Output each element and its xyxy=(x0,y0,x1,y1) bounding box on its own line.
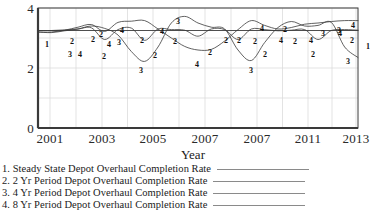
x-axis-tick: 2007 xyxy=(244,131,271,146)
series-marker-4: 4 xyxy=(107,41,111,49)
series-marker-3: 3 xyxy=(337,27,341,35)
legend-item-label: 1. Steady State Depot Overhaul Completio… xyxy=(2,163,211,175)
legend-item: 4. 8 Yr Period Depot Overhaul Completion… xyxy=(2,199,386,211)
y-axis-tick: 2 xyxy=(8,62,34,75)
series-marker-3: 3 xyxy=(68,51,72,59)
series-marker-2: 2 xyxy=(173,38,177,46)
x-axis-tick: 2007 xyxy=(192,131,219,146)
legend-item-label: 4. 8 Yr Period Depot Overhaul Completion… xyxy=(2,199,207,211)
series-marker-4: 4 xyxy=(195,61,199,69)
series-marker-4: 4 xyxy=(120,27,124,35)
series-marker-2: 2 xyxy=(253,38,257,46)
series-marker-2: 2 xyxy=(208,49,212,57)
y-axis-tick-labels: 024 xyxy=(4,0,34,130)
chart-legend: 1. Steady State Depot Overhaul Completio… xyxy=(2,163,386,211)
series-marker-2: 2 xyxy=(224,37,228,45)
x-axis-tick: 2001 xyxy=(37,131,64,146)
series-marker-2: 2 xyxy=(237,37,241,45)
series-marker-2: 2 xyxy=(91,36,95,44)
legend-item: 3. 4 Yr Period Depot Overhaul Completion… xyxy=(2,187,386,199)
series-marker-2: 2 xyxy=(70,38,74,46)
x-axis-tick-labels: 2001200320052007200720112013 xyxy=(0,131,386,148)
series-marker-3: 3 xyxy=(139,67,143,75)
y-axis-tick: 4 xyxy=(8,2,34,15)
series-marker-2: 2 xyxy=(140,37,144,45)
series-marker-3: 3 xyxy=(117,39,121,47)
series-marker-3: 3 xyxy=(249,67,253,75)
x-axis-tick: 2013 xyxy=(343,131,370,146)
series-marker-4: 4 xyxy=(78,51,82,59)
series-marker-2: 2 xyxy=(102,53,106,61)
legend-line-swatch xyxy=(217,169,309,170)
series-marker-2: 2 xyxy=(99,31,103,39)
legend-line-swatch xyxy=(213,181,305,182)
series-marker-4: 4 xyxy=(351,22,355,30)
legend-item-label: 2. 2 Yr Period Depot Overhaul Completion… xyxy=(2,175,207,187)
legend-line-swatch xyxy=(213,205,305,206)
x-axis-tick: 2005 xyxy=(140,131,167,146)
legend-item: 1. Steady State Depot Overhaul Completio… xyxy=(2,163,386,175)
series-marker-2: 2 xyxy=(283,26,287,34)
series-marker-1: 1 xyxy=(366,43,370,51)
series-marker-4: 4 xyxy=(279,37,283,45)
x-axis-title: Year xyxy=(0,147,386,162)
series-marker-2: 2 xyxy=(350,37,354,45)
series-marker-4: 4 xyxy=(309,37,313,45)
x-axis-tick: 2011 xyxy=(295,131,321,146)
series-marker-2: 2 xyxy=(293,38,297,46)
series-marker-3: 3 xyxy=(176,18,180,26)
series-marker-1: 1 xyxy=(45,41,49,49)
series-marker-3: 3 xyxy=(346,58,350,66)
series-marker-2: 2 xyxy=(263,51,267,59)
legend-item: 2. 2 Yr Period Depot Overhaul Completion… xyxy=(2,175,386,187)
series-marker-2: 2 xyxy=(311,51,315,59)
series-marker-4: 4 xyxy=(260,25,264,33)
legend-line-swatch xyxy=(213,193,305,194)
series-marker-3: 3 xyxy=(321,30,325,38)
x-axis-tick: 2003 xyxy=(89,131,116,146)
series-marker-2: 2 xyxy=(153,52,157,60)
legend-item-label: 3. 4 Yr Period Depot Overhaul Completion… xyxy=(2,187,207,199)
series-marker-4: 4 xyxy=(160,28,164,36)
